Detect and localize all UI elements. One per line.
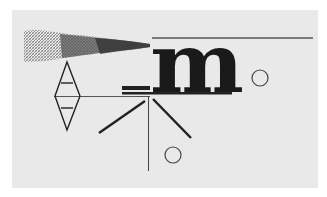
long-bar	[122, 92, 232, 95]
circle-right	[252, 70, 268, 86]
letter-m: m	[150, 15, 244, 111]
circle-bottom	[165, 147, 181, 163]
abstract-composition: m	[0, 0, 327, 197]
left-diagonal	[99, 101, 145, 133]
short-bar	[122, 86, 150, 90]
smoke-plume	[24, 30, 150, 62]
